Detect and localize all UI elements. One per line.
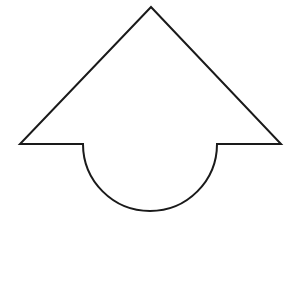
arrow-circle-outline-path	[20, 7, 281, 211]
drawing-canvas: Black outline drawing of an upward-point…	[0, 0, 300, 287]
arrow-over-circle-shape: Black outline drawing of an upward-point…	[0, 0, 300, 287]
